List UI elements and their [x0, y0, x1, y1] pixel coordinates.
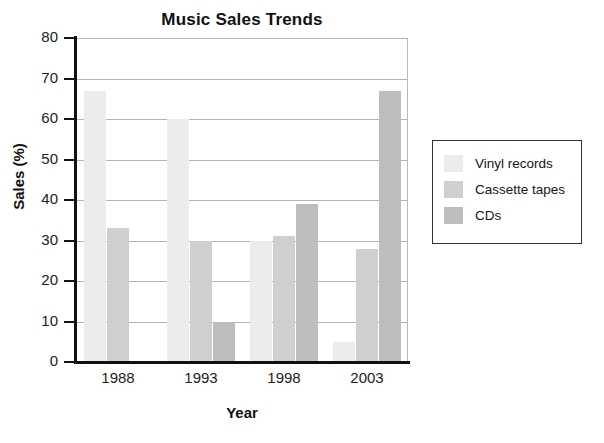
x-tick-label-1998: 1998 [244, 369, 324, 386]
y-tick-10 [64, 321, 76, 323]
bar-1993-cds [213, 322, 235, 363]
y-tick-label-20: 20 [18, 272, 58, 287]
y-tick-30 [64, 240, 76, 242]
legend-label-cassette: Cassette tapes [475, 182, 565, 197]
x-axis-line [74, 361, 410, 364]
y-tick-60 [64, 118, 76, 120]
bar-1993-vinyl [167, 119, 189, 362]
legend-item-cassette-tapes[interactable]: Cassette tapes [433, 176, 581, 202]
bar-1988-cassette [107, 228, 129, 362]
y-tick-label-10: 10 [18, 313, 58, 328]
bar-2003-cds [379, 91, 401, 362]
bar-2003-cassette [356, 249, 378, 362]
legend-swatch-icon-cassette [444, 181, 463, 198]
y-tick-70 [64, 78, 76, 80]
y-tick-label-70: 70 [18, 70, 58, 85]
legend-swatch-icon-vinyl [444, 155, 463, 172]
bar-group-1998 [250, 38, 333, 362]
bar-group-2003 [333, 38, 416, 362]
y-tick-40 [64, 199, 76, 201]
legend-item-cds[interactable]: CDs [433, 202, 581, 228]
legend-label-vinyl: Vinyl records [475, 156, 553, 171]
bar-1998-cassette [273, 236, 295, 362]
y-tick-0 [64, 361, 76, 363]
chart-title: Music Sales Trends [76, 10, 408, 30]
legend-swatch-icon-cds [444, 207, 463, 224]
y-tick-80 [64, 37, 76, 39]
bar-2003-vinyl [333, 342, 355, 362]
y-axis-title: Sales (%) [10, 97, 27, 257]
bar-group-1988 [84, 38, 167, 362]
x-tick-label-2003: 2003 [327, 369, 407, 386]
bar-1998-cds [296, 204, 318, 362]
bar-group-1993 [167, 38, 250, 362]
y-tick-20 [64, 280, 76, 282]
bar-1998-vinyl [250, 241, 272, 363]
y-tick-label-80: 80 [18, 29, 58, 44]
bar-1988-vinyl [84, 91, 106, 362]
legend-box: Vinyl records Cassette tapes CDs [432, 140, 582, 244]
plot-area [76, 38, 408, 362]
x-axis-title: Year [76, 404, 408, 421]
y-tick-label-0: 0 [18, 353, 58, 368]
legend-item-vinyl-records[interactable]: Vinyl records [433, 150, 581, 176]
x-tick-label-1993: 1993 [161, 369, 241, 386]
bar-1993-cassette [190, 241, 212, 363]
chart-figure: Music Sales Trends 01020304050607080 198… [0, 0, 604, 443]
y-tick-50 [64, 159, 76, 161]
legend-label-cds: CDs [475, 208, 501, 223]
x-tick-label-1988: 1988 [78, 369, 158, 386]
